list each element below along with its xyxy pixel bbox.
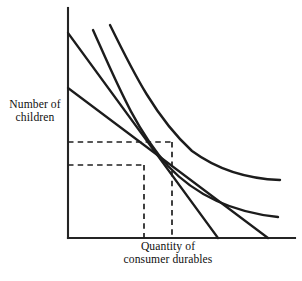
budget-line-steep xyxy=(68,33,218,238)
budget-line-shallow xyxy=(68,88,268,238)
y-axis-label: Number of children xyxy=(4,98,66,125)
indifference-curve-inner xyxy=(93,30,278,217)
x-axis-label: Quantity of consumer durables xyxy=(92,240,244,267)
figure-root: Number of children Quantity of consumer … xyxy=(0,0,302,281)
indifference-curve-plot xyxy=(0,0,302,281)
indifference-curve-outer xyxy=(110,25,280,180)
